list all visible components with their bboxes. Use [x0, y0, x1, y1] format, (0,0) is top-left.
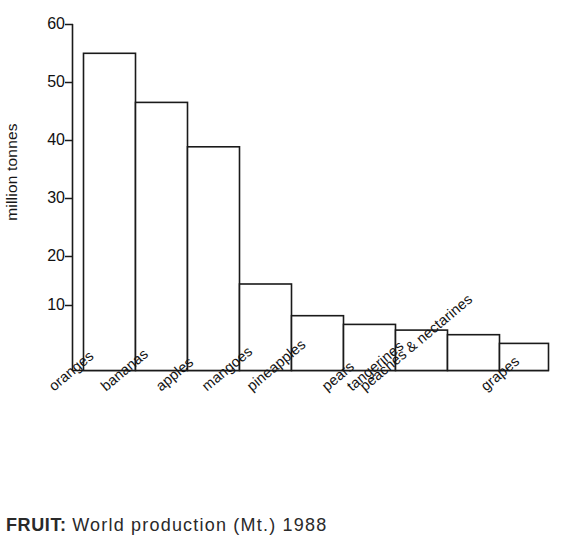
plot-area [0, 0, 566, 400]
bar-chart: million tonnes 60 50 40 30 20 10 [0, 0, 566, 535]
figure-caption-text: World production (Mt.) 1988 [72, 515, 327, 535]
bar-peaches-nectarines [448, 335, 500, 371]
figure-caption-label: FRUIT: [6, 515, 67, 535]
bar-oranges [84, 53, 136, 370]
bar-series [84, 53, 549, 370]
figure-caption: FRUIT: World production (Mt.) 1988 [6, 515, 327, 535]
bar-apples [188, 147, 240, 371]
bar-bananas [136, 102, 188, 370]
